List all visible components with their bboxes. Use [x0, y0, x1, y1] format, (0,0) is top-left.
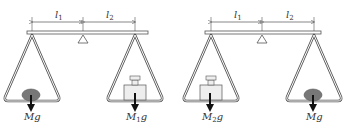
- right-pan: Mg: [287, 35, 341, 122]
- pivot-fulcrum: [257, 35, 267, 43]
- label-l2: l2: [106, 9, 114, 22]
- force-label: Mg: [305, 111, 323, 122]
- label-l1: l1: [55, 9, 63, 22]
- weight-knob: [132, 80, 138, 85]
- balance-figure-1: l1 l2 Mg M1g: [5, 9, 162, 124]
- left-pan: Mg: [5, 35, 59, 122]
- dimension-lines: l1 l2: [32, 9, 135, 31]
- force-label: M1g: [125, 111, 147, 124]
- label-l1: l1: [234, 9, 242, 22]
- pivot-fulcrum: [78, 35, 88, 43]
- force-label: M2g: [201, 111, 223, 124]
- left-pan: M2g: [184, 35, 238, 124]
- label-l2: l2: [286, 9, 294, 22]
- balance-figure-2: l1 l2 M2g Mg: [184, 9, 341, 124]
- weight-handle: [130, 76, 140, 80]
- beam: [205, 31, 321, 34]
- weight-handle: [206, 76, 216, 80]
- beam: [27, 31, 148, 34]
- balance-diagrams: l1 l2 Mg M1g: [0, 0, 348, 133]
- weight-knob: [208, 80, 214, 85]
- dimension-lines: l1 l2: [211, 9, 314, 31]
- force-label: Mg: [23, 111, 41, 122]
- right-pan: M1g: [108, 35, 162, 124]
